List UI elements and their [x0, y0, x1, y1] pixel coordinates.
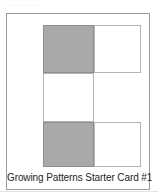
grid-cell-r1c1 — [94, 73, 141, 122]
scan-artifact-text: — — —— — — [4, 2, 64, 8]
card-caption: Growing Patterns Starter Card #1 — [7, 171, 149, 184]
starter-card: Growing Patterns Starter Card #1 — [6, 13, 150, 190]
grid-cell-r1c0[interactable] — [43, 73, 94, 122]
grid-cell-r0c1[interactable] — [94, 25, 141, 73]
pattern-grid — [43, 25, 141, 167]
grid-cell-r0c0[interactable] — [43, 25, 94, 73]
grid-cell-r2c0[interactable] — [43, 122, 94, 167]
scanned-page: — — —— — Growing Patterns Starter Card #… — [0, 0, 158, 194]
page-bottom-edge — [0, 191, 158, 192]
grid-cell-r2c1[interactable] — [94, 122, 141, 167]
